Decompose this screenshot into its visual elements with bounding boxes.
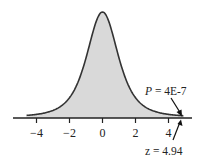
x-tick-label: 2 (133, 126, 139, 140)
x-tick-label: −4 (30, 126, 43, 140)
z-value-annotation: z = 4.94 (145, 120, 183, 158)
x-axis-ticks: −4−2024 (30, 118, 171, 140)
x-tick-label: 4 (166, 126, 172, 140)
z-value-label: z = 4.94 (145, 145, 183, 157)
z-value-arrow (173, 122, 180, 140)
density-chart: −4−2024 P = 4E-7 z = 4.94 (0, 0, 202, 163)
x-tick-label: 0 (100, 126, 106, 140)
x-tick-label: −2 (63, 126, 76, 140)
density-area (27, 12, 184, 118)
p-value-label: P = 4E-7 (144, 85, 187, 97)
